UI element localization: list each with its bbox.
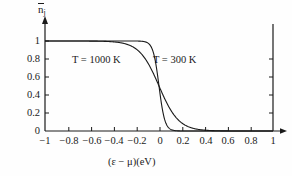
x-tick-label-1: 1 xyxy=(259,136,287,147)
annotation-t-300k: T = 300 K xyxy=(153,55,196,66)
y-tick-label-0: 0 xyxy=(14,126,40,137)
x-axis-title: (ε − μ)(eV) xyxy=(108,157,155,168)
y-axis-title: nj xyxy=(38,4,46,17)
y-tick-label-0.8: 0.8 xyxy=(14,54,40,65)
y-tick-label-0.2: 0.2 xyxy=(14,108,40,119)
y-tick-label-1: 1 xyxy=(14,36,40,47)
y-axis-arrowhead xyxy=(42,16,48,24)
y-axis-title-base: n xyxy=(38,4,44,15)
fermi-dirac-distribution-figure: nj (ε − μ)(eV) 1 0.8 0.6 0.4 0.2 0 −1 −0… xyxy=(0,0,292,176)
annotation-t-1000k: T = 1000 K xyxy=(72,55,121,66)
y-tick-label-0.4: 0.4 xyxy=(14,90,40,101)
plot-canvas xyxy=(0,0,292,176)
y-tick-label-0.6: 0.6 xyxy=(14,72,40,83)
x-axis-arrowhead xyxy=(280,128,287,133)
